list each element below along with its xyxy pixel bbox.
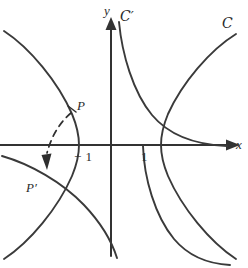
curve-C-left-upper [4, 31, 79, 145]
point-label-P: P [77, 99, 85, 112]
dashed-arc-arrowhead [42, 154, 52, 171]
point-label-P-prime: P′ [26, 181, 37, 194]
x-tick-label-one: 1 [141, 150, 148, 163]
curve-Cprime-branch-3 [2, 156, 117, 258]
figure-canvas [0, 0, 248, 268]
axes-group [0, 17, 240, 256]
curve-C-right-lower [161, 145, 236, 259]
dashed-arc-path [47, 113, 71, 153]
y-axis-arrowhead [106, 17, 117, 30]
curve-Cprime-lower-left [2, 156, 117, 258]
curve-label-C-glyph: C [222, 15, 233, 31]
curve-label-C-prime: C′ [120, 9, 134, 23]
curve-C-left-lower [4, 145, 79, 259]
inversion-dashed-arc [42, 113, 72, 170]
curve-label-C: C [222, 16, 233, 30]
y-axis-label: y [104, 4, 110, 17]
hyperbola-inversion-figure: y x − 1 1 P P′ C C′ [0, 0, 248, 268]
curve-label-C-prime-glyph: C [120, 8, 131, 24]
x-tick-label-negative-one: − 1 [74, 150, 93, 163]
x-axis-label: x [236, 138, 242, 151]
curve-Cprime-branch-2 [143, 146, 230, 265]
curve-Cprime-upper-right [119, 22, 227, 146]
curve-Cprime-branch-1 [119, 22, 227, 146]
curve-C-right-upper [161, 34, 236, 145]
curve-Cprime-lower-right [143, 146, 230, 265]
